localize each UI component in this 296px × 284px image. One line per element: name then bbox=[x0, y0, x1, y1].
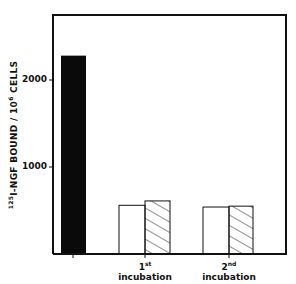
bar-white bbox=[203, 207, 229, 254]
x-label-2nd-incubation: 2nd incubation bbox=[194, 259, 264, 282]
x-label-1st-incubation: 1st incubation bbox=[110, 259, 180, 282]
y-tick-label-1000: 1000 bbox=[1, 161, 47, 171]
bar-solid-black bbox=[61, 56, 86, 254]
bar-hatched bbox=[145, 201, 170, 254]
bar-hatched bbox=[229, 206, 253, 254]
bar-chart bbox=[0, 0, 296, 284]
y-tick-label-2000: 2000 bbox=[1, 74, 47, 84]
bar-white bbox=[119, 205, 145, 254]
